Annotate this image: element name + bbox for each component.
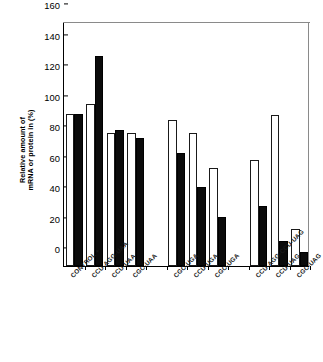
bar-group: [228, 23, 249, 266]
bar-open: [168, 120, 176, 266]
bar-group: [167, 23, 188, 266]
y-axis-tick-label: 160: [44, 0, 64, 11]
bar-group: [269, 23, 290, 266]
bar-filled: [279, 241, 287, 266]
x-axis-tick-mark: [105, 266, 106, 270]
bar-open: [271, 115, 279, 266]
x-axis-tick-mark: [249, 266, 250, 270]
x-axis-tick-mark: [187, 266, 188, 270]
bars-container: [64, 23, 309, 266]
bar-filled: [115, 130, 123, 266]
bar-open: [209, 168, 217, 266]
y-axis-tick: 160: [44, 0, 64, 13]
y-axis-tick: 80: [50, 117, 64, 135]
bar-group: [105, 23, 126, 266]
y-axis-title: Relative amount of mRNA or protein in (%…: [18, 60, 36, 240]
bar-open: [107, 133, 115, 266]
y-axis-tick-mark: [64, 3, 68, 4]
bar-open: [86, 104, 94, 266]
y-axis-tick: 140: [44, 26, 64, 44]
y-axis-tick: 40: [50, 178, 64, 196]
y-axis-tick: 100: [44, 87, 64, 105]
bar-group: [146, 23, 167, 266]
bar-group: [85, 23, 106, 266]
bar-group: [187, 23, 208, 266]
bar-filled: [136, 138, 144, 266]
y-axis-title-text: Relative amount of mRNA or protein in (%…: [19, 110, 36, 191]
x-axis-tick-mark: [167, 266, 168, 270]
y-axis-tick-label: 60: [50, 153, 64, 164]
y-axis-tick: 20: [50, 209, 64, 227]
y-axis-tick-label: 140: [44, 31, 64, 42]
bar-open: [127, 133, 135, 266]
bar-filled: [177, 153, 185, 266]
plot-area: 020406080100120140160: [63, 23, 309, 267]
bar-filled: [259, 206, 267, 266]
y-axis-tick-label: 0: [55, 244, 64, 255]
x-axis-tick-mark: [208, 266, 209, 270]
y-axis-tick-label: 80: [50, 122, 64, 133]
bar-group: [290, 23, 311, 266]
bar-open: [189, 133, 197, 266]
y-axis-tick-label: 120: [44, 61, 64, 72]
y-axis-tick-label: 100: [44, 92, 64, 103]
x-axis-tick-mark: [228, 266, 229, 270]
y-axis-tick-label: 20: [50, 214, 64, 225]
y-axis-tick: 0: [55, 239, 64, 257]
bar-filled: [218, 217, 226, 266]
bar-group: [64, 23, 85, 266]
x-axis-tick-mark: [310, 266, 311, 270]
bar-open: [250, 160, 258, 266]
bar-chart-figure: Relative amount of mRNA or protein in (%…: [0, 0, 323, 362]
x-axis-tick-mark: [146, 266, 147, 270]
x-axis-tick-mark: [126, 266, 127, 270]
bar-group: [208, 23, 229, 266]
x-axis-tick-mark: [269, 266, 270, 270]
y-axis-tick-label: 40: [50, 183, 64, 194]
bar-filled: [197, 187, 205, 266]
bar-open: [291, 229, 299, 266]
y-axis-tick: 120: [44, 56, 64, 74]
x-axis-tick-mark: [85, 266, 86, 270]
bar-filled: [95, 56, 103, 266]
x-axis-tick-mark: [290, 266, 291, 270]
bar-group: [126, 23, 147, 266]
bar-filled: [74, 114, 82, 267]
y-axis-title-line2: mRNA or protein in (%): [27, 110, 35, 191]
bar-group: [249, 23, 270, 266]
bar-open: [66, 114, 74, 267]
bar-filled: [300, 252, 308, 266]
y-axis-tick: 60: [50, 148, 64, 166]
